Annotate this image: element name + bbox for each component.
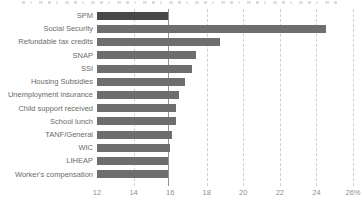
chart-row: Housing Subsidies <box>0 75 353 88</box>
category-label: School lunch <box>0 118 97 126</box>
bar-track <box>97 25 353 33</box>
bar-track <box>97 38 353 46</box>
chart-row: Unemployment insurance <box>0 88 353 101</box>
chart-row: School lunch <box>0 115 353 128</box>
category-label: Social Security <box>0 25 97 33</box>
chart-row: TANF/General <box>0 128 353 141</box>
category-label: Worker's compensation <box>0 171 97 179</box>
bar-track <box>97 51 353 59</box>
x-tick-label: 24 <box>312 188 320 197</box>
bar-liheap <box>97 157 168 165</box>
category-label: SNAP <box>0 52 97 60</box>
x-tick-label: 14 <box>129 188 137 197</box>
category-label: SPM <box>0 12 97 20</box>
x-axis: 1214161820222426% <box>97 188 353 200</box>
bar-track <box>97 12 353 20</box>
x-tick-label: 16 <box>166 188 174 197</box>
category-label: WIC <box>0 144 97 152</box>
bar-track <box>97 78 353 86</box>
bar-ssi <box>97 65 192 73</box>
chart-row: Child support received <box>0 102 353 115</box>
gridline-26 <box>353 9 354 186</box>
x-tick-label: 12 <box>93 188 101 197</box>
bar-spm <box>97 12 168 20</box>
chart-row: LIHEAP <box>0 155 353 168</box>
bar-social-security <box>97 25 326 33</box>
bar-track <box>97 131 353 139</box>
bar-track <box>97 91 353 99</box>
x-tick-label: 26% <box>345 188 360 197</box>
bar-worker-s-compensation <box>97 170 168 178</box>
bar-school-lunch <box>97 117 176 125</box>
bar-track <box>97 117 353 125</box>
bar-unemployment-insurance <box>97 91 179 99</box>
category-label: Child support received <box>0 105 97 113</box>
chart-rows: SPMSocial SecurityRefundable tax credits… <box>0 9 353 181</box>
bar-housing-subsidies <box>97 78 185 86</box>
category-label: LIHEAP <box>0 157 97 165</box>
bar-track <box>97 104 353 112</box>
category-label: Refundable tax credits <box>0 38 97 46</box>
chart-row: WIC <box>0 141 353 154</box>
category-label: TANF/General <box>0 131 97 139</box>
bar-track <box>97 65 353 73</box>
category-label: Housing Subsidies <box>0 78 97 86</box>
bar-refundable-tax-credits <box>97 38 220 46</box>
chart-row: Refundable tax credits <box>0 35 353 48</box>
bar-track <box>97 157 353 165</box>
chart-row: Social Security <box>0 22 353 35</box>
x-tick-label: 20 <box>239 188 247 197</box>
chart-row: SSI <box>0 62 353 75</box>
chart-row: SPM <box>0 9 353 22</box>
bar-track <box>97 170 353 178</box>
clipped-text-fragment <box>22 1 340 4</box>
bar-snap <box>97 51 196 59</box>
bar-tanf-general <box>97 131 172 139</box>
bar-wic <box>97 144 170 152</box>
spm-bar-chart-figure: SPMSocial SecurityRefundable tax credits… <box>0 0 363 206</box>
bar-child-support-received <box>97 104 176 112</box>
x-tick-label: 18 <box>203 188 211 197</box>
x-tick-label: 22 <box>276 188 284 197</box>
category-label: Unemployment insurance <box>0 91 97 99</box>
bar-track <box>97 144 353 152</box>
category-label: SSI <box>0 65 97 73</box>
chart-row: SNAP <box>0 49 353 62</box>
chart-row: Worker's compensation <box>0 168 353 181</box>
